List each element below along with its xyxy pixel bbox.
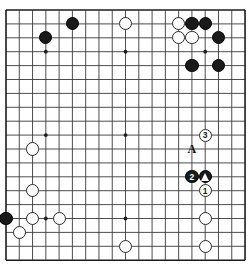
triangle-marker-icon — [201, 173, 209, 181]
stone-white-w-p3[interactable] — [185, 31, 198, 44]
stone-white-w-q16[interactable] — [199, 212, 212, 225]
stone-black-b-a16[interactable] — [0, 212, 13, 225]
stone-white-w-k18[interactable] — [119, 240, 132, 253]
go-board-diagram: 321A — [0, 0, 251, 269]
stone-black-b-p13[interactable] — [185, 170, 198, 183]
stone-white-w-q10[interactable] — [199, 129, 212, 142]
stone-white-w-q18[interactable] — [199, 240, 212, 253]
board-letter-a: A — [185, 143, 199, 155]
stone-black-b-p5[interactable] — [185, 59, 198, 72]
stone-black-b-p2[interactable] — [185, 17, 198, 30]
stone-white-w-q14[interactable] — [199, 184, 212, 197]
stone-white-w-c11[interactable] — [26, 142, 39, 155]
stone-white-w-b17[interactable] — [13, 226, 26, 239]
stone-white-w-e16[interactable] — [53, 212, 66, 225]
